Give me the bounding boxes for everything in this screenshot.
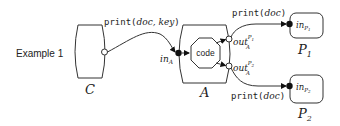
agent-in-port-label: inA [160, 54, 174, 65]
printer1-component: inP1 P1 [286, 13, 323, 59]
agent-in-port-icon [175, 50, 181, 56]
message-a-to-p1: print(doc) [232, 8, 286, 18]
code-label: code [196, 48, 215, 58]
agent-component: code A [175, 25, 232, 100]
example-label: Example 1 [16, 48, 64, 59]
printer2-component: inP2 P2 [286, 75, 323, 123]
printer1-in-port-icon [286, 21, 292, 27]
agent-out2-port-label: outP2A [233, 60, 255, 76]
agent-out1-port-label: outP1A [233, 34, 254, 50]
printer1-label: P1 [297, 42, 312, 59]
message-c-to-a: print(doc, key) [104, 17, 180, 27]
message-a-to-p2: print(doc) [231, 91, 285, 101]
printer2-label: P2 [297, 106, 312, 123]
client-box [75, 25, 105, 78]
client-component: C [75, 25, 108, 97]
component-diagram: Example 1 C print(doc, key) code A inA o… [0, 0, 340, 126]
client-label: C [85, 82, 95, 97]
edge-agent-to-printer1 [231, 24, 286, 37]
edge-client-to-agent [108, 32, 176, 52]
agent-label: A [199, 85, 209, 100]
client-out-port-icon [102, 49, 108, 55]
printer2-in-port-icon [286, 83, 292, 89]
